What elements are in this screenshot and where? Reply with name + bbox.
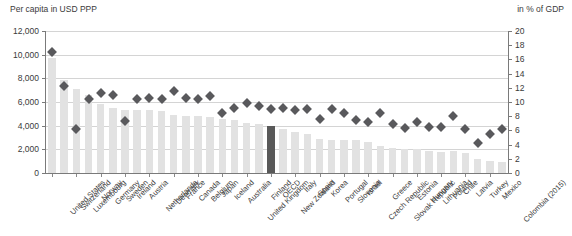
bar <box>304 134 312 173</box>
category-tick <box>295 174 296 177</box>
data-point-marker <box>302 104 312 114</box>
right-tick-label: 4 <box>515 140 520 150</box>
right-tick-mark <box>509 173 512 174</box>
category-tick <box>198 174 199 177</box>
bar <box>255 124 263 173</box>
data-point-marker <box>375 108 385 118</box>
bar <box>474 159 482 173</box>
bar <box>85 95 93 173</box>
right-tick-mark <box>509 145 512 146</box>
right-tick-mark <box>509 88 512 89</box>
category-tick <box>490 174 491 177</box>
right-tick-mark <box>509 45 512 46</box>
category-axis-line <box>45 173 509 174</box>
bar <box>413 149 421 173</box>
category-tick <box>101 174 102 177</box>
data-point-marker <box>229 103 239 113</box>
category-tick <box>125 174 126 177</box>
left-tick-mark <box>42 31 45 32</box>
right-tick-label: 10 <box>515 97 524 107</box>
bar <box>109 108 117 173</box>
bar <box>267 126 275 173</box>
left-tick-mark <box>42 126 45 127</box>
right-tick-label: 12 <box>515 83 524 93</box>
bar <box>133 110 141 173</box>
right-tick-mark <box>509 116 512 117</box>
category-tick <box>271 174 272 177</box>
data-point-marker <box>242 98 252 108</box>
right-tick-mark <box>509 59 512 60</box>
right-tick-label: 2 <box>515 154 520 164</box>
category-tick <box>76 174 77 177</box>
category-tick <box>417 174 418 177</box>
right-tick-mark <box>509 130 512 131</box>
data-point-marker <box>278 103 288 113</box>
data-point-marker <box>339 108 349 118</box>
data-point-marker <box>315 114 325 124</box>
bar <box>158 111 166 173</box>
right-axis-caption: in % of GDP <box>517 4 564 14</box>
data-point-marker <box>448 111 458 121</box>
bar <box>389 148 397 173</box>
data-point-marker <box>169 86 179 96</box>
bar <box>498 162 506 173</box>
data-point-marker <box>108 90 118 100</box>
left-axis-caption: Per capita in USD PPP <box>10 4 97 14</box>
bar <box>316 139 324 173</box>
bar <box>291 132 299 173</box>
bar <box>48 58 56 173</box>
bar <box>243 123 251 173</box>
category-tick <box>441 174 442 177</box>
right-tick-label: 18 <box>515 40 524 50</box>
bar <box>364 142 372 173</box>
bar <box>328 140 336 173</box>
left-tick-mark <box>42 149 45 150</box>
data-point-marker <box>205 91 215 101</box>
left-tick-label: 12,000 <box>0 26 39 36</box>
bar <box>206 117 214 173</box>
right-tick-label: 6 <box>515 125 520 135</box>
category-tick <box>149 174 150 177</box>
category-tick <box>344 174 345 177</box>
category-tick <box>222 174 223 177</box>
category-tick <box>393 174 394 177</box>
left-tick-label: 4,000 <box>0 121 39 131</box>
left-tick-mark <box>42 55 45 56</box>
bar <box>352 140 360 173</box>
bar <box>231 120 239 173</box>
gridline <box>46 102 508 103</box>
bar <box>194 116 202 173</box>
bar <box>486 161 494 173</box>
category-label: Colombia (2015) <box>521 178 567 224</box>
data-point-marker <box>217 108 227 118</box>
data-point-marker <box>96 89 106 99</box>
left-tick-label: 8,000 <box>0 73 39 83</box>
gridline <box>46 78 508 79</box>
bar <box>462 153 470 173</box>
category-tick <box>465 174 466 177</box>
right-tick-label: 8 <box>515 111 520 121</box>
category-tick <box>247 174 248 177</box>
left-tick-label: 2,000 <box>0 144 39 154</box>
bar <box>450 151 458 173</box>
bar <box>437 152 445 173</box>
bar <box>401 149 409 173</box>
bar <box>146 110 154 173</box>
data-point-marker <box>351 116 361 126</box>
right-tick-label: 16 <box>515 54 524 64</box>
right-tick-mark <box>509 74 512 75</box>
bar <box>377 146 385 173</box>
left-tick-mark <box>42 102 45 103</box>
data-point-marker <box>436 122 446 132</box>
chart-container: Per capita in USD PPP in % of GDP 02,000… <box>0 0 572 236</box>
category-tick <box>368 174 369 177</box>
data-point-marker <box>400 123 410 133</box>
left-tick-mark <box>42 78 45 79</box>
bar <box>279 129 287 173</box>
data-point-marker <box>290 105 300 115</box>
right-tick-mark <box>509 102 512 103</box>
left-tick-label: 0 <box>0 168 39 178</box>
right-tick-label: 14 <box>515 69 524 79</box>
data-point-marker <box>485 129 495 139</box>
gridline <box>46 55 508 56</box>
